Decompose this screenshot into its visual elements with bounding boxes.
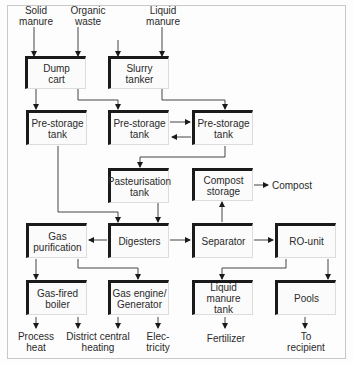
- node-pre-storage-tank-1: Pre-storage tank: [26, 110, 87, 145]
- node-slurry-tanker: Slurry tanker: [108, 56, 169, 89]
- output-electricity: Elec- tricity: [138, 331, 178, 353]
- input-liquid-manure: Liquid manure: [140, 5, 186, 27]
- output-compost: Compost: [272, 180, 322, 191]
- node-gas-purification: Gas purification: [26, 223, 87, 258]
- node-digesters: Digesters: [108, 223, 169, 258]
- node-gas-engine-generator: Gas engine/ Generator: [108, 280, 169, 315]
- node-liquid-manure-tank: Liquid manure tank: [192, 280, 253, 315]
- input-solid-manure: Solid manure: [14, 5, 58, 27]
- node-dump-cart: Dump cart: [25, 56, 86, 89]
- node-ro-unit: RO-unit: [275, 223, 336, 258]
- output-fertilizer: Fertilizer: [198, 333, 254, 344]
- node-pre-storage-tank-3: Pre-storage tank: [192, 110, 253, 145]
- output-to-recipient: To recipient: [280, 331, 332, 353]
- node-compost-storage: Compost storage: [192, 168, 253, 201]
- output-district-heating: District central heating: [66, 331, 130, 353]
- input-organic-waste: Organic waste: [62, 5, 114, 27]
- node-separator: Separator: [192, 223, 253, 258]
- node-gas-fired-boiler: Gas-fired boiler: [26, 280, 87, 315]
- node-pools: Pools: [275, 280, 336, 315]
- node-pasteurisation-tank: Pasteurisation tank: [108, 168, 169, 203]
- node-pre-storage-tank-2: Pre-storage tank: [108, 110, 169, 145]
- output-process-heat: Process heat: [16, 331, 56, 353]
